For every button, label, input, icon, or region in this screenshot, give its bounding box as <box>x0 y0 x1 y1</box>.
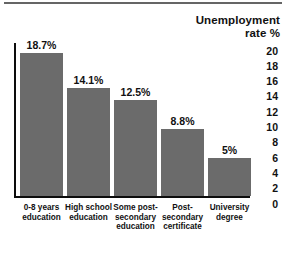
bar <box>67 88 110 196</box>
category-label-line: certificate <box>155 222 210 232</box>
bar <box>20 53 63 196</box>
y-axis-tick-label: 12 <box>252 107 278 118</box>
y-axis-tick-label: 20 <box>252 46 278 57</box>
plot-area: 18.7%14.1%12.5%8.8%5% <box>14 43 250 198</box>
x-axis-category-labels: 0-8 yearseducationHigh schooleducationSo… <box>16 203 250 248</box>
chart-title-line-1: Unemployment <box>100 14 280 27</box>
y-axis-tick-label: 18 <box>252 61 278 72</box>
x-axis-category-label: Universitydegree <box>202 203 257 222</box>
bar-value-label: 12.5% <box>108 87 163 98</box>
bar <box>161 129 204 196</box>
y-axis-tick-label: 4 <box>252 168 278 179</box>
chart-title-line-2: rate % <box>100 27 280 40</box>
unemployment-rate-bar-chart: Unemployment rate % 18.7%14.1%12.5%8.8%5… <box>0 0 286 255</box>
x-axis-line <box>14 196 250 198</box>
y-axis-tick-label: 14 <box>252 91 278 102</box>
y-axis-tick-label: 2 <box>252 183 278 194</box>
chart-title: Unemployment rate % <box>100 14 280 40</box>
y-axis-tick-label: 6 <box>252 153 278 164</box>
bar-value-label: 18.7% <box>14 40 69 51</box>
y-axis-tick-label: 16 <box>252 76 278 87</box>
y-axis-tick-label: 10 <box>252 122 278 133</box>
category-label-line: University <box>202 203 257 213</box>
bar-value-label: 14.1% <box>61 75 116 86</box>
bar-value-label: 5% <box>202 145 257 156</box>
bar <box>114 100 157 196</box>
bar <box>208 158 251 196</box>
y-axis-tick-label: 8 <box>252 137 278 148</box>
y-axis-tick-labels: 20181614121086420 <box>252 43 282 200</box>
bar-series: 18.7%14.1%12.5%8.8%5% <box>16 43 250 196</box>
bar-value-label: 8.8% <box>155 116 210 127</box>
category-label-line: degree <box>202 213 257 223</box>
top-divider-rule <box>4 2 282 4</box>
